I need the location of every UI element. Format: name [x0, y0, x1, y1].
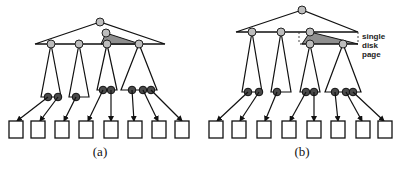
- leaf-page: [209, 121, 223, 138]
- subtree-4: [325, 44, 361, 92]
- root-node: [298, 6, 306, 14]
- root-node: [96, 18, 104, 26]
- subtree-3: [300, 44, 320, 92]
- leaf-page: [331, 121, 345, 138]
- level-node: [306, 28, 314, 36]
- leaf-page: [79, 121, 93, 138]
- leaf-page: [128, 121, 142, 138]
- caption-b: (b): [294, 144, 309, 159]
- caption-a: (a): [93, 144, 107, 159]
- subtree-1: [41, 44, 61, 97]
- subtree-4: [121, 44, 157, 90]
- annotation-disk: disk: [362, 41, 379, 50]
- subtree-2: [69, 44, 89, 97]
- leaf-page: [31, 121, 45, 138]
- annotation-single: single: [362, 32, 386, 41]
- level-node: [135, 40, 143, 48]
- leaf-page: [282, 121, 296, 138]
- leaf-page: [307, 121, 321, 138]
- leaf-page: [356, 121, 370, 138]
- subtree-3: [97, 44, 117, 90]
- level-node: [339, 40, 347, 48]
- level-node: [47, 40, 55, 48]
- diagram-canvas: (a) single disk page: [0, 0, 401, 169]
- level-node: [248, 28, 256, 36]
- subtree-2: [271, 32, 291, 92]
- annotation-page: page: [362, 50, 381, 59]
- leaf-page: [257, 121, 271, 138]
- level-node: [75, 40, 83, 48]
- leaf-page: [55, 121, 69, 138]
- level-node: [277, 28, 285, 36]
- inner-node: [102, 29, 110, 37]
- panel-b: single disk page: [209, 6, 392, 159]
- leaf-page: [175, 121, 189, 138]
- leaf-page: [378, 121, 392, 138]
- leaf-page: [9, 121, 23, 138]
- leaf-page: [232, 121, 246, 138]
- level-node: [103, 40, 111, 48]
- panel-a: (a): [9, 18, 189, 159]
- level-node: [306, 40, 314, 48]
- leaf-page: [152, 121, 166, 138]
- subtree-1: [242, 32, 262, 92]
- leaf-page: [104, 121, 118, 138]
